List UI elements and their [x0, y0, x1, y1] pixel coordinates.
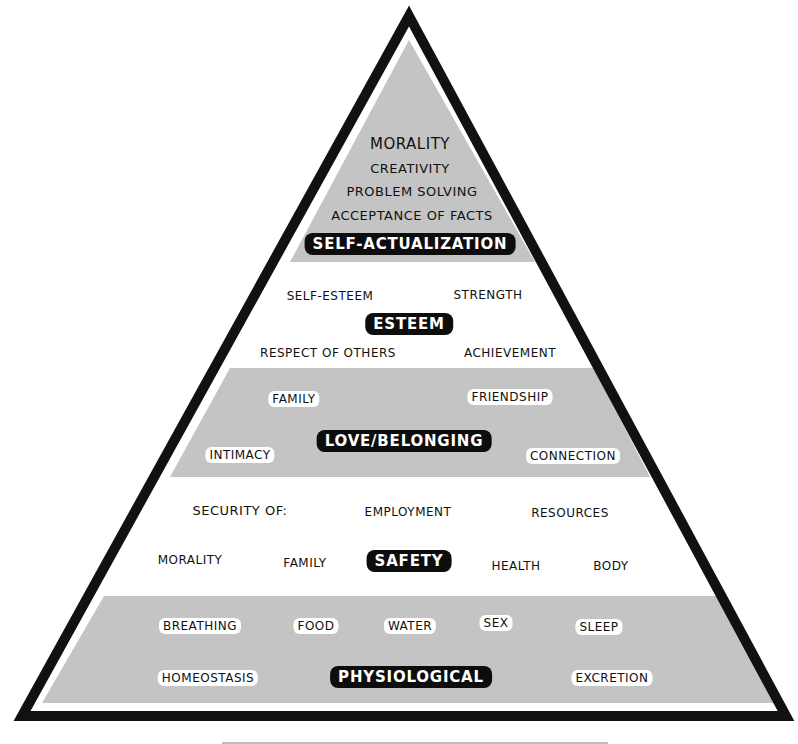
item-achievement: ACHIEVEMENT [464, 346, 556, 360]
level-title-esteem: ESTEEM [365, 313, 453, 335]
level-title-safety: SAFETY [367, 550, 452, 572]
item-acceptance-of-facts: ACCEPTANCE OF FACTS [331, 208, 492, 223]
item-respect-of-others: RESPECT OF OTHERS [260, 346, 396, 360]
item-excretion: EXCRETION [571, 670, 652, 686]
safety-prefix: SECURITY OF: [192, 503, 287, 518]
item-sex: SEX [480, 615, 513, 631]
item-morality-safety: MORALITY [158, 553, 223, 567]
item-intimacy: INTIMACY [205, 447, 274, 463]
item-water: WATER [384, 618, 436, 634]
item-morality-top: MORALITY [370, 135, 450, 153]
item-sleep: SLEEP [575, 619, 622, 635]
item-family-safety: FAMILY [283, 556, 326, 570]
level-title-physiological: PHYSIOLOGICAL [330, 666, 492, 688]
level-title-self-actualization: SELF-ACTUALIZATION [305, 233, 516, 255]
item-homeostasis: HOMEOSTASIS [158, 670, 258, 686]
item-resources: RESOURCES [531, 506, 609, 520]
item-problem-solving: PROBLEM SOLVING [346, 184, 477, 199]
item-creativity: CREATIVITY [370, 161, 450, 176]
item-self-esteem: SELF-ESTEEM [287, 289, 374, 303]
item-breathing: BREATHING [159, 618, 241, 634]
level-title-love-belonging: LOVE/BELONGING [317, 430, 492, 452]
item-food: FOOD [293, 618, 338, 634]
item-body: BODY [593, 559, 628, 573]
item-family-love: FAMILY [268, 391, 319, 407]
item-strength: STRENGTH [453, 288, 522, 302]
item-connection: CONNECTION [526, 448, 620, 464]
item-employment: EMPLOYMENT [365, 505, 452, 519]
item-friendship: FRIENDSHIP [468, 389, 553, 405]
item-health: HEALTH [491, 559, 540, 573]
